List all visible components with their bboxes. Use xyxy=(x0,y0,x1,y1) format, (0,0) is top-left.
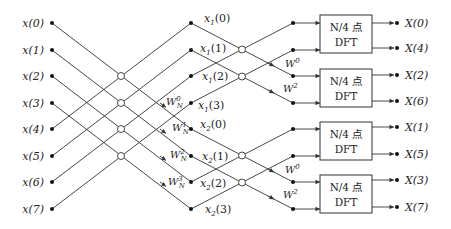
output-label-3: X(6) xyxy=(404,95,428,108)
input-label-1: x(1) xyxy=(22,44,44,57)
x1-label-0: x1(0) xyxy=(204,12,230,27)
dft-block-3-line1: N/4 点 xyxy=(330,128,363,140)
output-label-0: X(0) xyxy=(404,17,428,30)
x2-label-1: x2(1) xyxy=(202,150,228,165)
input-label-7: x(7) xyxy=(22,203,44,216)
dft-block-4-line2: DFT xyxy=(335,196,358,208)
dft-block-2: N/4 点 DFT xyxy=(320,69,372,107)
x2-label-2: x2(2) xyxy=(200,177,226,192)
dft-block-2-line2: DFT xyxy=(335,90,358,102)
stage2-dots xyxy=(291,21,295,211)
twiddle-wn0: W0N xyxy=(166,95,184,110)
twiddle-w2-upper: W2 xyxy=(283,82,298,94)
input-label-5: x(5) xyxy=(22,150,44,163)
output-labels: X(0) X(4) X(2) X(6) X(1) X(5) X(3) X(7) xyxy=(404,17,428,214)
dft-block-1: N/4 点 DFT xyxy=(320,15,372,53)
input-dots xyxy=(50,21,54,211)
middle-labels: x1(0) x1(1) x1(2) x1(3) x2(0) x2(1) x2(2… xyxy=(198,12,231,218)
twiddle-wn3: W3N xyxy=(168,175,186,190)
fft-butterfly-diagram: N/4 点 DFT N/4 点 DFT N/4 点 DFT N/4 点 DFT xyxy=(0,0,451,229)
dft-block-3: N/4 点 DFT xyxy=(320,122,372,160)
input-labels: x(0) x(1) x(2) x(3) x(4) x(5) x(6) x(7) xyxy=(22,17,44,216)
input-label-4: x(4) xyxy=(22,123,44,136)
x1-label-2: x1(2) xyxy=(202,70,228,85)
x2-label-3: x2(3) xyxy=(205,203,231,218)
twiddle-wn1: W1N xyxy=(172,121,190,136)
x1-label-1: x1(1) xyxy=(200,42,226,57)
dft-block-1-line1: N/4 点 xyxy=(330,21,363,33)
dft-block-4: N/4 点 DFT xyxy=(320,175,372,213)
output-label-1: X(4) xyxy=(404,42,428,55)
input-label-0: x(0) xyxy=(22,17,44,30)
output-label-2: X(2) xyxy=(404,69,428,82)
output-label-6: X(3) xyxy=(404,174,428,187)
stage2-nodes xyxy=(239,46,246,186)
input-label-2: x(2) xyxy=(22,70,44,83)
input-label-6: x(6) xyxy=(22,176,44,189)
twiddle-w0-lower: W0 xyxy=(285,163,300,175)
twiddle-w2-lower: W2 xyxy=(283,188,298,200)
x1-label-3: x1(3) xyxy=(198,99,224,114)
output-dots xyxy=(395,21,399,209)
dft-output-wires xyxy=(372,23,394,207)
twiddle-w0-upper: W0 xyxy=(285,57,300,69)
dft-block-2-line1: N/4 点 xyxy=(330,75,363,87)
stage1-nodes xyxy=(118,73,125,160)
twiddle-wn2: W2N xyxy=(170,148,188,163)
output-label-7: X(7) xyxy=(404,201,428,214)
x2-label-0: x2(0) xyxy=(200,118,226,133)
middle-dots xyxy=(189,21,193,211)
dft-block-3-line2: DFT xyxy=(335,143,358,155)
stage2-arrows xyxy=(268,63,274,199)
output-label-5: X(5) xyxy=(404,148,428,161)
dft-block-1-line2: DFT xyxy=(335,36,358,48)
output-label-4: X(1) xyxy=(404,121,428,134)
stage1-arrows xyxy=(160,103,166,187)
dft-input-wires xyxy=(293,23,320,209)
stage1-twiddle-labels: W0N W1N W2N W3N xyxy=(166,95,190,190)
input-label-3: x(3) xyxy=(22,97,44,110)
dft-block-4-line1: N/4 点 xyxy=(330,181,363,193)
